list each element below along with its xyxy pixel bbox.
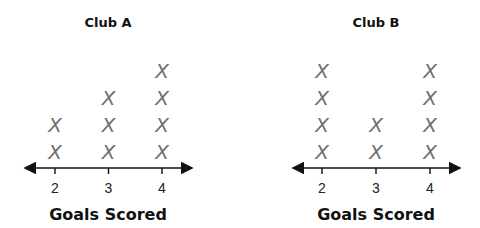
- tick-label: 2: [318, 180, 326, 196]
- data-point-x-mark: X: [422, 140, 438, 164]
- club-b-plot: Club B 234 XXXXXXXXXX Goals Scored: [293, 15, 460, 224]
- dot-plots: Club A 234 XXXXXXXXX Goals Scored Club B…: [0, 0, 480, 228]
- data-point-x-mark: X: [422, 113, 438, 137]
- data-point-x-mark: X: [154, 86, 170, 110]
- data-point-x-mark: X: [422, 86, 438, 110]
- tick-label: 3: [372, 180, 380, 196]
- chart-title: Club B: [353, 15, 400, 30]
- data-point-x-mark: X: [314, 59, 330, 83]
- data-point-x-mark: X: [154, 59, 170, 83]
- tick-label: 4: [426, 180, 434, 196]
- tick-label: 4: [158, 180, 166, 196]
- data-point-x-mark: X: [368, 140, 384, 164]
- tick-label: 3: [105, 180, 113, 196]
- x-axis-label: Goals Scored: [317, 205, 435, 224]
- data-point-x-mark: X: [154, 140, 170, 164]
- data-point-x-mark: X: [314, 140, 330, 164]
- data-point-x-mark: X: [47, 113, 63, 137]
- data-point-x-mark: X: [368, 113, 384, 137]
- data-point-x-mark: X: [47, 140, 63, 164]
- chart-title: Club A: [84, 15, 131, 30]
- data-point-x-mark: X: [154, 113, 170, 137]
- data-point-x-mark: X: [314, 86, 330, 110]
- data-point-x-mark: X: [101, 86, 117, 110]
- data-point-x-mark: X: [422, 59, 438, 83]
- tick-label: 2: [51, 180, 59, 196]
- data-point-x-mark: X: [101, 140, 117, 164]
- x-axis-label: Goals Scored: [49, 205, 167, 224]
- data-point-x-mark: X: [314, 113, 330, 137]
- club-a-plot: Club A 234 XXXXXXXXX Goals Scored: [25, 15, 192, 224]
- data-point-x-mark: X: [101, 113, 117, 137]
